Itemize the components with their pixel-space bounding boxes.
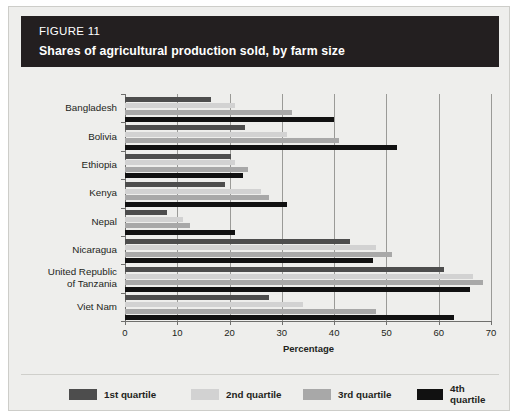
y-axis-tick: [121, 179, 125, 180]
y-axis-tick: [121, 94, 125, 95]
legend-label: 3rd quartile: [338, 389, 391, 400]
chart-bar: [125, 245, 376, 250]
legend-item[interactable]: 1st quartile: [69, 389, 156, 400]
chart-bar: [125, 309, 376, 314]
figure-container: FIGURE 11 Shares of agricultural product…: [8, 6, 510, 411]
x-axis-tick-label: 70: [476, 327, 506, 338]
chart-bar: [125, 267, 444, 272]
figure-number: FIGURE 11: [39, 23, 499, 39]
chart-bar: [125, 280, 483, 285]
y-axis-category-label: Kenya: [3, 187, 117, 199]
chart-category-group: Nicaragua: [125, 236, 491, 264]
legend-separator: [21, 374, 499, 375]
y-axis-category-label: Nicaragua: [3, 244, 117, 256]
x-axis-tick-label: 30: [267, 327, 297, 338]
x-axis-tick-label: 40: [319, 327, 349, 338]
y-axis-category-label: Nepal: [3, 216, 117, 228]
legend-swatch: [303, 389, 331, 400]
chart-bar: [125, 315, 454, 320]
legend-item[interactable]: 4th quartile: [417, 383, 499, 405]
chart-category-group: United Republicof Tanzania: [125, 264, 491, 292]
y-axis-category-label: Ethiopia: [3, 159, 117, 171]
gridline: [491, 94, 492, 321]
chart-category-group: Bangladesh: [125, 94, 491, 122]
chart-bar: [125, 223, 190, 228]
chart-bar: [125, 295, 269, 300]
x-axis-tick: [177, 321, 178, 325]
chart-bar: [125, 287, 470, 292]
figure-title: Shares of agricultural production sold, …: [39, 42, 499, 60]
y-axis-tick: [121, 151, 125, 152]
chart-bar: [125, 117, 334, 122]
legend-label: 2nd quartile: [226, 389, 282, 400]
legend-item[interactable]: 3rd quartile: [303, 389, 391, 400]
chart-bar: [125, 173, 243, 178]
chart-bar: [125, 154, 231, 159]
chart-bar: [125, 125, 245, 130]
x-axis-tick: [230, 321, 231, 325]
x-axis-tick-label: 60: [424, 327, 454, 338]
legend-swatch: [191, 389, 219, 400]
chart-legend: 1st quartile2nd quartile3rd quartile4th …: [21, 381, 499, 407]
chart-bar: [125, 160, 235, 165]
chart-bar: [125, 217, 183, 222]
chart-bar: [125, 252, 392, 257]
chart-bar: [125, 138, 339, 143]
x-axis-title: Percentage: [125, 343, 492, 354]
chart-bar: [125, 103, 235, 108]
y-axis-tick: [121, 264, 125, 265]
chart-bar: [125, 189, 261, 194]
chart-bar: [125, 145, 397, 150]
chart-category-group: Viet Nam: [125, 293, 491, 321]
x-axis-tick: [386, 321, 387, 325]
chart-bar: [125, 195, 269, 200]
x-axis-tick: [334, 321, 335, 325]
legend-label: 4th quartile: [450, 383, 499, 405]
chart-category-group: Bolivia: [125, 122, 491, 150]
chart-category-group: Nepal: [125, 208, 491, 236]
legend-swatch: [69, 389, 97, 400]
legend-item[interactable]: 2nd quartile: [191, 389, 282, 400]
chart-bar: [125, 302, 303, 307]
x-axis-tick: [282, 321, 283, 325]
figure-header: FIGURE 11 Shares of agricultural product…: [21, 16, 499, 67]
y-axis-tick: [121, 208, 125, 209]
chart-bar: [125, 210, 167, 215]
chart-bar: [125, 167, 248, 172]
x-axis-tick: [439, 321, 440, 325]
x-axis-tick-label: 20: [215, 327, 245, 338]
y-axis-category-label: United Republicof Tanzania: [3, 266, 117, 290]
x-axis-tick-label: 50: [371, 327, 401, 338]
x-axis-tick: [491, 321, 492, 325]
chart-bar: [125, 274, 473, 279]
plot-area: BangladeshBoliviaEthiopiaKenyaNepalNicar…: [125, 94, 491, 321]
x-axis-tick-label: 0: [110, 327, 140, 338]
legend-label: 1st quartile: [104, 389, 156, 400]
chart-bar: [125, 110, 292, 115]
chart-bar: [125, 182, 225, 187]
x-axis-line: [125, 321, 492, 322]
chart-category-group: Ethiopia: [125, 151, 491, 179]
chart-bar: [125, 97, 211, 102]
chart-bar: [125, 230, 235, 235]
y-axis-tick: [121, 236, 125, 237]
y-axis-tick: [121, 122, 125, 123]
chart-bar: [125, 239, 350, 244]
y-axis-category-label: Viet Nam: [3, 301, 117, 313]
chart-category-group: Kenya: [125, 179, 491, 207]
legend-swatch: [417, 389, 443, 400]
chart-bar: [125, 132, 287, 137]
y-axis-category-label: Bangladesh: [3, 102, 117, 114]
x-axis-tick-label: 10: [162, 327, 192, 338]
chart-bar: [125, 202, 287, 207]
y-axis-tick: [121, 293, 125, 294]
y-axis-category-label: Bolivia: [3, 131, 117, 143]
chart-bar: [125, 258, 373, 263]
x-axis-tick: [125, 321, 126, 325]
